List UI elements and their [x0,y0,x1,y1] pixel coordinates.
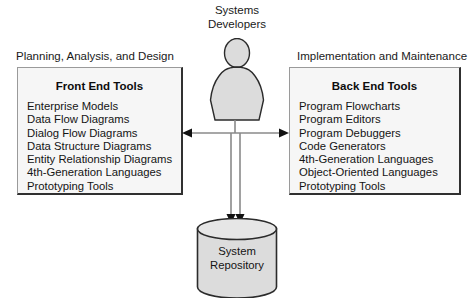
list-item: Prototyping Tools [27,180,181,193]
list-item: 4th-Generation Languages [299,153,459,166]
list-item: Entity Relationship Diagrams [27,153,181,166]
back-end-tools-title: Back End Tools [290,80,459,93]
list-item: Program Debuggers [299,127,459,140]
systems-developers-label: Systems Developers [182,3,292,31]
person-silhouette-icon [206,38,268,122]
front-end-tools-title: Front End Tools [18,80,181,93]
system-repository-label-line1: System [195,245,279,259]
front-end-tools-list: Enterprise Models Data Flow Diagrams Dia… [18,100,181,193]
system-repository-label-line2: Repository [195,259,279,273]
list-item: Program Editors [299,113,459,126]
arrow-left-icon [182,129,192,138]
back-end-tools-list: Program Flowcharts Program Editors Progr… [290,100,459,193]
list-item: Enterprise Models [27,100,181,113]
list-item: Program Flowcharts [299,100,459,113]
list-item: Dialog Flow Diagrams [27,127,181,140]
list-item: Data Flow Diagrams [27,113,181,126]
systems-developers-label-line1: Systems [182,3,292,17]
list-item: Data Structure Diagrams [27,140,181,153]
front-end-tools-panel: Front End Tools Enterprise Models Data F… [17,67,183,195]
list-item: Object-Oriented Languages [299,166,459,179]
left-section-caption: Planning, Analysis, and Design [16,49,174,63]
arrow-right-icon [279,129,289,138]
list-item: 4th-Generation Languages [27,166,181,179]
back-end-tools-panel: Back End Tools Program Flowcharts Progra… [289,67,461,195]
right-section-caption: Implementation and Maintenance [297,49,467,63]
list-item: Prototyping Tools [299,180,459,193]
list-item: Code Generators [299,140,459,153]
systems-developers-label-line2: Developers [182,17,292,31]
system-repository-label: System Repository [195,245,279,272]
diagram-canvas: Systems Developers Planning, Analysis, a… [0,0,474,308]
